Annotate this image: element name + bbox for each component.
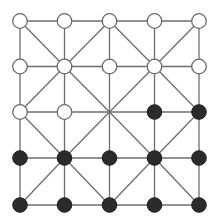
board-point[interactable] — [145, 11, 165, 31]
game-board — [0, 0, 218, 220]
black-piece[interactable] — [147, 151, 162, 166]
white-piece[interactable] — [102, 14, 117, 29]
white-piece[interactable] — [192, 59, 207, 74]
board-point[interactable] — [10, 102, 30, 122]
black-piece[interactable] — [147, 105, 162, 120]
board-point[interactable] — [55, 11, 75, 31]
white-piece[interactable] — [57, 59, 72, 74]
board-point[interactable] — [145, 57, 165, 77]
white-piece[interactable] — [13, 59, 28, 74]
board-point[interactable] — [55, 102, 75, 122]
board-point[interactable] — [100, 57, 120, 77]
board-point[interactable] — [10, 57, 30, 77]
white-piece[interactable] — [147, 14, 162, 29]
board-point[interactable] — [100, 102, 120, 122]
black-piece[interactable] — [13, 151, 28, 166]
board-point[interactable] — [55, 195, 75, 215]
point-hit-area[interactable] — [100, 102, 120, 122]
board-point[interactable] — [10, 148, 30, 168]
black-piece[interactable] — [192, 198, 207, 213]
black-piece[interactable] — [192, 105, 207, 120]
black-piece[interactable] — [13, 198, 28, 213]
board-point[interactable] — [100, 195, 120, 215]
board-point[interactable] — [100, 148, 120, 168]
board-point[interactable] — [189, 195, 209, 215]
board-point[interactable] — [55, 57, 75, 77]
black-piece[interactable] — [57, 151, 72, 166]
board-point[interactable] — [189, 11, 209, 31]
white-piece[interactable] — [57, 105, 72, 120]
black-piece[interactable] — [57, 198, 72, 213]
board-point[interactable] — [145, 102, 165, 122]
board-point[interactable] — [189, 148, 209, 168]
board-point[interactable] — [189, 57, 209, 77]
white-piece[interactable] — [13, 105, 28, 120]
white-piece[interactable] — [147, 59, 162, 74]
white-piece[interactable] — [13, 14, 28, 29]
board-point[interactable] — [55, 148, 75, 168]
board-point[interactable] — [145, 148, 165, 168]
board-point[interactable] — [189, 102, 209, 122]
white-piece[interactable] — [102, 59, 117, 74]
white-piece[interactable] — [192, 14, 207, 29]
board-point[interactable] — [145, 195, 165, 215]
board-point[interactable] — [10, 11, 30, 31]
black-piece[interactable] — [102, 198, 117, 213]
board-point[interactable] — [10, 195, 30, 215]
black-piece[interactable] — [147, 198, 162, 213]
white-piece[interactable] — [57, 14, 72, 29]
black-piece[interactable] — [192, 151, 207, 166]
board-point[interactable] — [100, 11, 120, 31]
black-piece[interactable] — [102, 151, 117, 166]
